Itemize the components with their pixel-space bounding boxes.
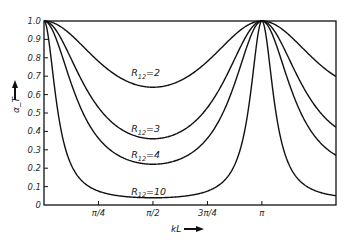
x-axis-ticks: π/4π/23π/4π: [92, 201, 266, 218]
y-tick-label: 0.9: [27, 34, 41, 44]
x-axis-arrow-icon: [184, 226, 204, 232]
curve-label: R12=2: [131, 67, 160, 81]
y-tick-label: 0.7: [27, 71, 41, 81]
y-tick-label: 0.4: [27, 126, 41, 136]
y-tick-label: 0.2: [27, 163, 41, 173]
y-tick-label: 0.1: [27, 182, 41, 192]
x-tick-label: π/4: [92, 208, 105, 218]
y-tick-label: 1.0: [27, 16, 41, 26]
y-axis-arrow-icon: [12, 80, 18, 100]
x-tick-label: 3π/4: [198, 208, 217, 218]
transmission-chart: 00.10.20.30.40.50.60.70.80.91.0 π/4π/23π…: [0, 0, 346, 247]
curves-group: [44, 21, 336, 198]
curve-r12-2: [44, 21, 336, 87]
plot-frame: [44, 21, 336, 205]
y-tick-label: 0.5: [27, 108, 41, 118]
y-tick-label: 0.3: [27, 145, 41, 155]
y-tick-label: 0.6: [27, 90, 41, 100]
y-tick-label: 0: [36, 200, 41, 210]
y-axis-ticks: 00.10.20.30.40.50.60.70.80.91.0: [27, 16, 48, 210]
curve-r12-10: [44, 21, 336, 198]
curve-label: R12=3: [131, 123, 160, 137]
x-tick-label: π/2: [146, 208, 159, 218]
y-tick-label: 0.8: [27, 53, 41, 63]
x-tick-label: π: [259, 208, 265, 218]
x-axis-label: kL: [171, 224, 181, 234]
curve-label: R12=4: [131, 149, 160, 163]
